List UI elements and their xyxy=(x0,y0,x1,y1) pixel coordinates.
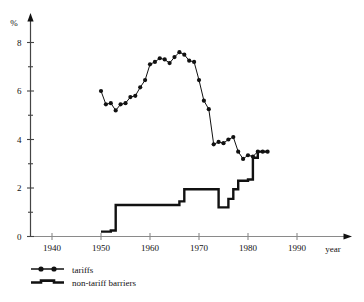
data-point-tariffs xyxy=(148,62,152,66)
legend-dot-icon xyxy=(38,266,43,271)
x-axis-tick-label: 1950 xyxy=(92,243,111,253)
data-point-tariffs xyxy=(226,137,230,141)
data-point-tariffs xyxy=(202,99,206,103)
data-point-tariffs xyxy=(197,78,201,82)
y-axis-tick-label: 0 xyxy=(17,232,22,242)
data-point-tariffs xyxy=(138,85,142,89)
y-axis-tick-label: 4 xyxy=(17,135,22,145)
data-point-tariffs xyxy=(172,55,176,59)
data-point-tariffs xyxy=(123,101,127,105)
tariffs-vs-nontariff-barriers-chart: 02468 194019501960197019801990 % year ta… xyxy=(0,0,364,302)
data-point-tariffs xyxy=(168,61,172,65)
data-point-tariffs xyxy=(192,60,196,64)
y-axis-title: % xyxy=(10,18,18,28)
data-point-tariffs xyxy=(246,153,250,157)
data-point-tariffs xyxy=(256,150,260,154)
legend-label-non-tariff-barriers: non-tariff barriers xyxy=(72,278,137,288)
data-point-tariffs xyxy=(114,108,118,112)
data-point-tariffs xyxy=(236,150,240,154)
data-point-tariffs xyxy=(261,150,265,154)
x-axis-tick-label: 1980 xyxy=(239,243,258,253)
data-point-tariffs xyxy=(207,107,211,111)
chart-figure: 02468 194019501960197019801990 % year ta… xyxy=(0,0,364,302)
legend-label-tariffs: tariffs xyxy=(72,265,94,275)
legend-dot-icon xyxy=(51,266,56,271)
data-point-tariffs xyxy=(187,59,191,63)
x-axis-tick-label: 1960 xyxy=(141,243,160,253)
data-point-tariffs xyxy=(128,95,132,99)
y-axis-tick-label: 6 xyxy=(17,86,22,96)
data-point-tariffs xyxy=(221,141,225,145)
data-point-tariffs xyxy=(104,102,108,106)
x-axis-tick-label: 1990 xyxy=(288,243,307,253)
data-point-tariffs xyxy=(182,53,186,57)
y-axis-tick-label: 8 xyxy=(17,38,22,48)
data-point-tariffs xyxy=(251,154,255,158)
data-point-tariffs xyxy=(163,57,167,61)
data-point-tariffs xyxy=(212,142,216,146)
data-point-tariffs xyxy=(109,101,113,105)
data-point-tariffs xyxy=(119,102,123,106)
data-point-tariffs xyxy=(99,89,103,93)
x-axis-title: year xyxy=(325,244,341,254)
data-point-tariffs xyxy=(133,94,137,98)
data-point-tariffs xyxy=(177,50,181,54)
data-point-tariffs xyxy=(158,56,162,60)
x-axis-tick-label: 1970 xyxy=(190,243,209,253)
x-axis-tick-label: 1940 xyxy=(43,243,62,253)
y-axis-tick-label: 2 xyxy=(17,183,22,193)
data-point-tariffs xyxy=(153,60,157,64)
data-point-tariffs xyxy=(241,157,245,161)
data-point-tariffs xyxy=(217,140,221,144)
chart-background xyxy=(0,0,364,302)
data-point-tariffs xyxy=(143,78,147,82)
data-point-tariffs xyxy=(231,135,235,139)
data-point-tariffs xyxy=(266,150,270,154)
